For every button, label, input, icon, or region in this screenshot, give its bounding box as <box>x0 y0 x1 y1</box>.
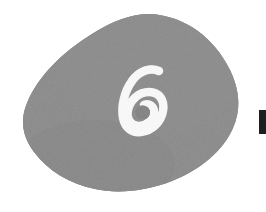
image-canvas: Textured gray teardrop shape with a whit… <box>0 0 266 212</box>
page-edge-bar <box>259 110 266 134</box>
figure-illustration <box>0 0 266 212</box>
